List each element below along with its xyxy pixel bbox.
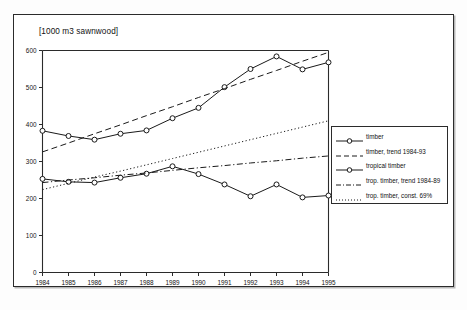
series-trop-timber-const-69- — [43, 121, 329, 190]
legend-item-timber-trend[interactable]: timber, trend 1984-93 — [332, 145, 447, 160]
series-timber-trend-1984-93 — [43, 52, 329, 152]
y-tick-label: 300 — [9, 158, 37, 165]
x-tick-label: 1989 — [159, 279, 187, 286]
y-tick-label: 200 — [9, 195, 37, 202]
legend-label-timber: timber — [366, 134, 384, 140]
legend-label-trop-timber-trend: trop. timber, trend 1984-89 — [366, 178, 440, 184]
legend-item-timber[interactable]: timber — [332, 130, 447, 145]
y-tick-label: 100 — [9, 232, 37, 239]
x-tick-label: 1995 — [315, 279, 343, 286]
legend-label-tropical-timber: tropical timber — [366, 163, 406, 169]
y-tick-label: 600 — [9, 47, 37, 54]
legend-swatch-trop-timber-trend — [336, 176, 363, 186]
legend-item-trop-timber-trend[interactable]: trop. timber, trend 1984-89 — [332, 174, 447, 189]
x-tick-label: 1988 — [133, 279, 161, 286]
figure-root: [1000 m3 sawnwood] timber timber, trend … — [0, 0, 467, 310]
legend-item-tropical-timber[interactable]: tropical timber — [332, 159, 447, 174]
x-tick-label: 1991 — [211, 279, 239, 286]
x-tick-label: 1984 — [29, 279, 57, 286]
chart-legend: timber timber, trend 1984-93 tropical ti… — [331, 126, 448, 204]
legend-label-timber-trend: timber, trend 1984-93 — [366, 149, 426, 155]
x-tick-label: 1987 — [107, 279, 135, 286]
x-tick-label: 1992 — [237, 279, 265, 286]
x-tick-label: 1985 — [55, 279, 83, 286]
legend-swatch-trop-timber-const — [336, 191, 363, 201]
plot-frame — [43, 51, 329, 273]
y-tick-label: 500 — [9, 84, 37, 91]
x-tick-label: 1990 — [185, 279, 213, 286]
legend-swatch-timber-trend — [336, 147, 363, 157]
series-timber — [40, 54, 331, 142]
x-tick-label: 1986 — [81, 279, 109, 286]
legend-label-trop-timber-const: trop. timber, const. 69% — [366, 193, 432, 199]
x-tick-label: 1994 — [289, 279, 317, 286]
legend-swatch-timber — [336, 132, 363, 142]
legend-item-trop-timber-const[interactable]: trop. timber, const. 69% — [332, 188, 447, 203]
y-tick-label: 400 — [9, 121, 37, 128]
x-tick-label: 1993 — [263, 279, 291, 286]
legend-swatch-tropical-timber — [336, 161, 363, 171]
y-tick-label: 0 — [9, 269, 37, 276]
series-trop-timber-trend-1984-89 — [43, 156, 329, 183]
